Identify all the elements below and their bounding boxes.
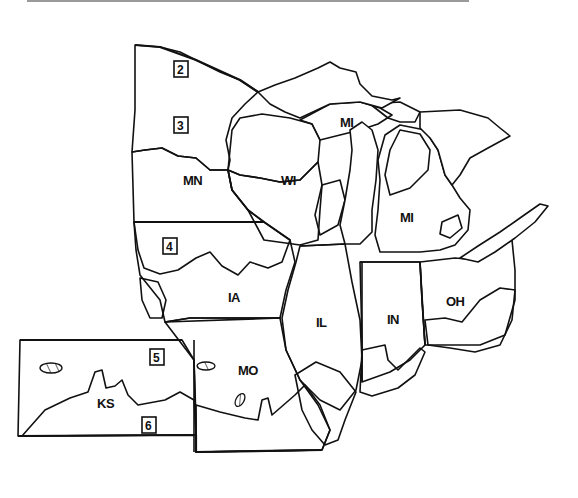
state-borders	[134, 170, 425, 452]
lake-superior	[258, 62, 400, 118]
zone-marker-4: 4	[163, 238, 177, 254]
ia-north-hatch	[134, 222, 290, 275]
svg-text:6: 6	[145, 419, 152, 433]
lake-erie	[460, 204, 548, 262]
label-ia: IA	[228, 290, 241, 305]
mo-small-patch-2	[233, 392, 247, 408]
midwest-map: MN WI MI MI IA IL IN OH MO KS 2 3 4 5 6	[0, 0, 578, 498]
label-ks: KS	[97, 396, 115, 411]
label-wi: WI	[281, 173, 296, 188]
label-in: IN	[387, 312, 399, 327]
label-mn: MN	[183, 173, 202, 188]
mi-thumb-hatch	[440, 215, 462, 238]
ia-zone	[134, 222, 295, 322]
label-oh: OH	[446, 294, 465, 309]
label-mi-upper: MI	[340, 115, 353, 130]
label-il: IL	[316, 315, 327, 330]
mo-small-patch-1	[197, 362, 215, 370]
svg-text:3: 3	[177, 119, 184, 133]
wi-north-zone	[228, 114, 320, 182]
oh-se-hatch	[425, 288, 515, 352]
lake-michigan	[340, 122, 378, 244]
zone-marker-5: 5	[150, 349, 164, 365]
mi-lower-hatch	[385, 130, 430, 195]
label-mi-lower: MI	[400, 210, 413, 225]
zone-marker-2: 2	[174, 61, 188, 77]
ks-small-patch	[40, 363, 62, 373]
zone-marker-3: 3	[174, 117, 188, 133]
label-mo: MO	[238, 363, 258, 378]
mn-north-zone	[132, 45, 258, 170]
svg-text:2: 2	[177, 63, 184, 77]
zone-marker-6: 6	[142, 417, 156, 433]
lake-huron	[420, 110, 510, 185]
svg-text:4: 4	[166, 240, 173, 254]
svg-text:5: 5	[153, 351, 160, 365]
